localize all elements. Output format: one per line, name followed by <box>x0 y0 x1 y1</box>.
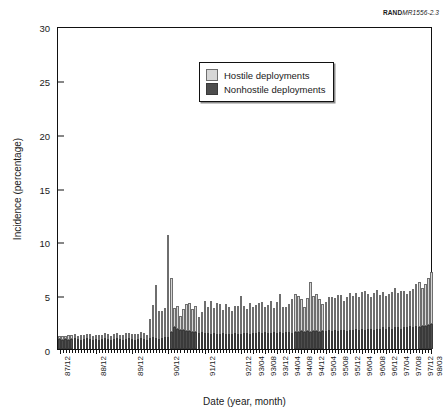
bar-segment-nonhostile <box>285 332 287 349</box>
x-axis-label: Date (year, month) <box>57 396 432 407</box>
x-axis-tick-label: 93/12 <box>281 356 290 376</box>
bar-stack <box>394 288 396 349</box>
bar-stack <box>158 311 160 349</box>
bar-stack <box>213 308 215 349</box>
bar-stack <box>424 284 426 349</box>
bar-segment-nonhostile <box>67 340 69 349</box>
bar-segment-nonhostile <box>89 339 91 349</box>
bar-segment-nonhostile <box>258 332 260 349</box>
bar-stack <box>421 288 423 349</box>
figure-chart-incidence-of-deployments: RANDMR1556-2.3 Incidence (percentage) 05… <box>0 0 445 417</box>
bar-stack <box>291 299 293 349</box>
x-axis-tick-mark <box>362 349 363 354</box>
x-axis-tick-mark <box>108 349 109 353</box>
bar-stack <box>134 334 136 349</box>
bar-segment-nonhostile <box>306 331 308 349</box>
x-axis-tick-mark <box>271 349 272 353</box>
bar-segment-nonhostile <box>77 339 79 349</box>
bar-segment-hostile <box>116 333 118 338</box>
bar-segment-nonhostile <box>210 334 212 349</box>
bar-segment-nonhostile <box>355 329 357 349</box>
bar-stack <box>98 335 100 349</box>
bar-segment-nonhostile <box>385 329 387 349</box>
bar-segment-hostile <box>134 334 136 340</box>
bar-segment-hostile <box>207 307 209 333</box>
bar-segment-hostile <box>291 299 293 332</box>
x-axis-tick-mark <box>232 349 233 353</box>
x-axis-tick-mark <box>413 349 414 353</box>
bar-stack <box>219 304 221 349</box>
x-axis-tick-mark <box>332 349 333 353</box>
bar-segment-nonhostile <box>58 339 60 349</box>
bar-segment-nonhostile <box>331 331 333 349</box>
bar-stack <box>367 294 369 349</box>
bar-stack <box>264 307 266 349</box>
x-axis-tick-label: 97/08 <box>414 356 423 376</box>
bar-segment-nonhostile <box>352 330 354 349</box>
bar-segment-hostile <box>367 294 369 328</box>
bar-segment-hostile <box>228 307 230 334</box>
x-axis-tick-mark <box>211 349 212 353</box>
bar-segment-nonhostile <box>349 330 351 349</box>
bar-stack <box>294 294 296 349</box>
x-axis-tick-label: 92/12 <box>244 356 253 376</box>
bar-segment-hostile <box>264 307 266 332</box>
bar-segment-nonhostile <box>204 333 206 349</box>
x-axis-tick-mark <box>144 349 145 353</box>
bar-segment-nonhostile <box>64 339 66 349</box>
bar-stack <box>131 334 133 349</box>
bar-segment-nonhostile <box>418 327 420 349</box>
y-axis-tick-label: 30 <box>39 23 58 34</box>
bar-segment-hostile <box>164 308 166 337</box>
x-axis-tick-mark <box>298 349 299 353</box>
bar-segment-nonhostile <box>397 327 399 349</box>
bar-segment-nonhostile <box>300 331 302 349</box>
x-axis-tick-label: 96/04 <box>365 356 374 376</box>
bar-stack <box>182 309 184 349</box>
bar-stack <box>376 290 378 349</box>
bar-stack <box>364 291 366 349</box>
bar-stack <box>406 294 408 349</box>
bar-segment-hostile <box>128 333 130 338</box>
x-axis-tick-mark <box>280 349 281 353</box>
bar-segment-nonhostile <box>179 330 181 349</box>
y-axis-tick-label: 10 <box>39 238 58 249</box>
x-axis-tick-mark <box>135 349 136 353</box>
bar-segment-hostile <box>216 303 218 334</box>
x-axis-tick-mark <box>295 349 296 353</box>
x-axis-tick-mark <box>165 349 166 353</box>
x-axis-tick-mark <box>350 349 351 354</box>
bar-segment-hostile <box>119 335 121 339</box>
bar-segment-nonhostile <box>110 340 112 349</box>
bar-stack <box>352 296 354 349</box>
bar-stack <box>140 332 142 349</box>
bar-stack <box>427 278 429 349</box>
bar-segment-nonhostile <box>367 329 369 349</box>
x-axis-tick-mark <box>262 349 263 353</box>
x-axis-tick-mark <box>301 349 302 354</box>
bar-segment-nonhostile <box>158 339 160 349</box>
x-axis-tick-mark <box>317 349 318 353</box>
bar-segment-hostile <box>282 307 284 333</box>
x-axis-tick-mark <box>162 349 163 353</box>
bar-segment-nonhostile <box>155 338 157 349</box>
x-axis-tick-label: 91/12 <box>208 356 217 376</box>
bar-stack <box>388 294 390 349</box>
bar-segment-nonhostile <box>149 338 151 349</box>
bar-stack <box>225 304 227 349</box>
x-axis-tick-label: 94/04 <box>293 356 302 376</box>
bar-stack <box>334 298 336 349</box>
x-axis-tick-mark <box>368 349 369 353</box>
bar-stack <box>61 336 63 349</box>
bar-segment-nonhostile <box>188 331 190 349</box>
bar-segment-nonhostile <box>182 330 184 349</box>
bar-segment-nonhostile <box>234 333 236 349</box>
x-axis-tick-mark <box>114 349 115 353</box>
bar-stack <box>95 335 97 349</box>
x-axis-tick-mark <box>380 349 381 353</box>
bar-stack <box>340 295 342 349</box>
bar-segment-nonhostile <box>164 337 166 349</box>
x-axis-tick-label: 90/12 <box>172 356 181 376</box>
bar-stack <box>167 235 169 349</box>
x-axis-tick-mark <box>292 349 293 353</box>
